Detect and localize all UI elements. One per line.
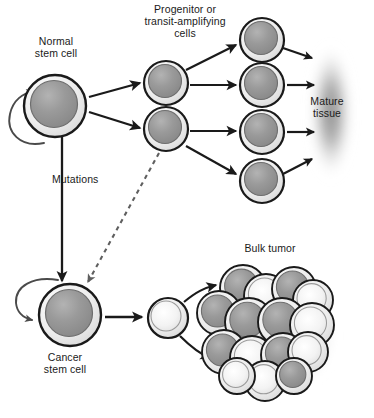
arrow-cell-1-to-tissue xyxy=(283,48,312,58)
cell-progenitor-lower xyxy=(144,107,188,151)
tumor-cell xyxy=(219,358,255,394)
tumor-cell xyxy=(276,358,312,394)
arrow-stem-to-progenitor-upper xyxy=(89,83,140,97)
cell-progenitor-upper xyxy=(144,61,188,105)
cell-cancer-stem xyxy=(39,284,101,346)
cell-differentiated-2 xyxy=(240,63,284,107)
cell-normal-stem xyxy=(24,75,86,137)
arrow-cell-4-to-tissue xyxy=(283,159,312,174)
dedifferentiation-dashed-arrow xyxy=(88,153,159,282)
cell-differentiated-3 xyxy=(240,110,284,154)
arrow-progenitor-upper-to-cell-1 xyxy=(186,45,236,70)
caption-strip-cropped xyxy=(0,411,374,418)
cancer-stem-cell-diagram: Normal stem cell Progenitor or transit-a… xyxy=(0,0,374,418)
arrow-stem-to-progenitor-lower xyxy=(89,112,140,128)
diagram-canvas xyxy=(0,0,374,418)
arrow-progenitor-lower-to-cell-4 xyxy=(186,146,236,174)
cell-differentiated-1 xyxy=(240,18,284,62)
mature-tissue-blob xyxy=(310,44,352,180)
cell-tumor-seed xyxy=(148,298,188,338)
cell-differentiated-4 xyxy=(240,159,284,203)
